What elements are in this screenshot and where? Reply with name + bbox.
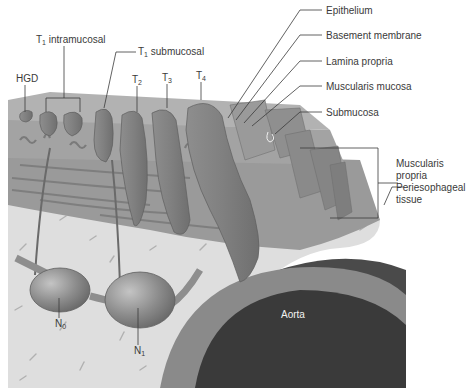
label-n0: N0: [55, 318, 66, 332]
label-t3-sub: 3: [168, 77, 172, 84]
label-t2-sub: 2: [138, 79, 142, 86]
label-periesophageal-line2: tissue: [396, 194, 422, 205]
label-t1-intramucosal-rest: intramucosal: [46, 34, 105, 45]
label-aorta: Aorta: [281, 309, 305, 320]
label-n1: N1: [134, 345, 145, 359]
label-n0-sub: 0: [62, 323, 66, 330]
label-muscularis-mucosa: Muscularis mucosa: [326, 81, 412, 92]
label-t1-submucosal: T1 submucosal: [138, 46, 204, 60]
label-hgd: HGD: [16, 73, 38, 84]
label-basement-membrane: Basement membrane: [326, 30, 422, 41]
lymph-node-n1: [105, 272, 175, 328]
label-n1-sub: 1: [141, 350, 145, 357]
label-periesophageal-line1: Periesophageal: [396, 182, 466, 193]
label-t1-submucosal-rest: submucosal: [148, 46, 204, 57]
label-t3: T3: [162, 72, 172, 86]
label-t4: T4: [196, 70, 206, 84]
label-epithelium: Epithelium: [326, 5, 373, 16]
tumor-t1-submucosal: [94, 109, 113, 162]
label-muscularis-propria-line2: propria: [396, 170, 427, 181]
lymph-node-n0: [30, 268, 90, 312]
label-t1-intramucosal: T1 intramucosal: [36, 34, 105, 48]
label-muscularis-propria-line1: Muscularis: [396, 158, 444, 169]
label-submucosa: Submucosa: [326, 107, 379, 118]
label-lamina-propria: Lamina propria: [326, 56, 393, 67]
label-t2: T2: [132, 74, 142, 88]
label-t4-sub: 4: [202, 75, 206, 82]
